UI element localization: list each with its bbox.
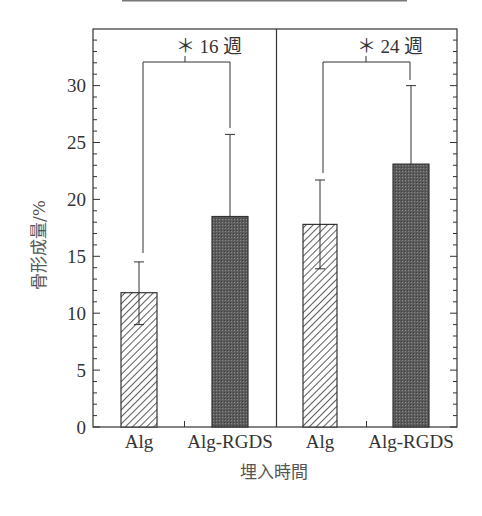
y-tick-25: 25: [67, 132, 86, 153]
significance-bracket-24w: [323, 56, 410, 173]
category-label-1: Alg: [125, 431, 154, 452]
annotation-16w: ＊ 16 週: [176, 36, 243, 57]
bar-alg-24w: [303, 180, 337, 427]
y-tick-15: 15: [67, 246, 86, 267]
category-label-4: Alg-RGDS: [368, 431, 454, 452]
bar-alg-rgds-24w: [393, 86, 429, 427]
y-tick-5: 5: [77, 360, 87, 381]
x-axis-title: 埋入時間: [240, 462, 308, 482]
y-axis-ticks-right: [450, 40, 457, 427]
y-axis-ticks-left: [93, 40, 100, 427]
bar-alg-16w: [121, 262, 157, 427]
category-label-2: Alg-RGDS: [187, 431, 273, 452]
y-tick-30: 30: [67, 75, 86, 96]
bar-alg-rgds-16w: [212, 134, 248, 427]
y-tick-10: 10: [67, 303, 86, 324]
y-tick-0: 0: [77, 417, 87, 438]
y-tick-20: 20: [67, 189, 86, 210]
y-tick-labels: 0 5 10 15 20 25 30: [67, 75, 86, 438]
x-category-labels: Alg Alg-RGDS Alg Alg-RGDS: [125, 431, 454, 452]
y-axis-title: 骨形成量/%: [29, 200, 49, 290]
bar: [393, 164, 429, 427]
bar-chart: 0 5 10 15 20 25 30: [0, 0, 482, 516]
annotation-24w: ＊ 24 週: [357, 36, 424, 57]
category-label-3: Alg: [306, 431, 335, 452]
bar: [212, 217, 248, 428]
